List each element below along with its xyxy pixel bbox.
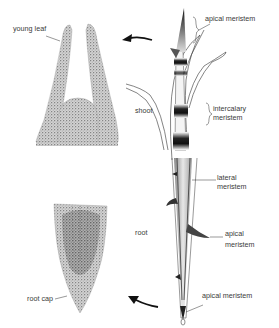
label-apical-meristem-top: apical meristem: [205, 15, 255, 24]
arrow-to-shoot-section-icon: [122, 34, 152, 42]
root-tip-section: [54, 204, 107, 313]
label-intercalary-meristem: meristem: [213, 114, 243, 123]
label-apical-meristem-bottom: apical meristem: [202, 292, 252, 301]
label-root: root: [135, 229, 147, 238]
label-apical-root-meristem: meristem: [225, 241, 255, 250]
apical-meristem-top-brace: [193, 17, 199, 43]
young-leaf-pointer: [46, 36, 60, 41]
label-lateral-meristem: meristem: [217, 183, 247, 192]
root-cap-pointer: [55, 296, 67, 299]
label-apical-root: apical: [225, 230, 244, 239]
intercalary-meristem-brace: [206, 103, 212, 125]
shoot-apex-section: [36, 24, 118, 146]
apical-meristem-bottom-pointer: [186, 305, 203, 312]
label-shoot: shoot: [135, 107, 153, 116]
arrow-to-root-section-icon: [128, 296, 158, 307]
diagram-canvas: [0, 0, 279, 328]
label-young-leaf: young leaf: [13, 25, 46, 34]
shoot-illustration: [126, 8, 226, 160]
label-root-cap: root cap: [27, 295, 53, 304]
